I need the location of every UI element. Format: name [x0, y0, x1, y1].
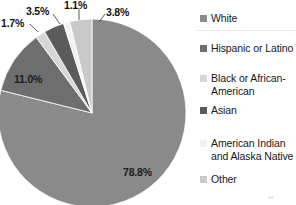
legend-swatch-icon-american-indian-and-alaska-native	[200, 140, 207, 147]
leader-line-other	[99, 14, 105, 22]
legend-swatch-icon-black-or-african-american	[200, 75, 207, 82]
data-label-black: 1.7%	[1, 17, 24, 29]
leader-line-asian	[53, 14, 60, 24]
legend-item-asian[interactable]: Asian	[200, 104, 237, 117]
data-label-asian: 3.5%	[26, 5, 49, 17]
legend-divider-rule	[196, 30, 296, 31]
leader-lines-group	[0, 0, 192, 205]
legend-swatch-icon-other	[200, 176, 207, 183]
data-label-american-indian: 1.1%	[64, 0, 87, 11]
pie-chart-figure: 78.8% 11.0% 1.7% 3.5% 1.1% 3.8% White Hi…	[0, 0, 296, 205]
legend-item-american-indian-and-alaska-native[interactable]: American Indian and Alaska Native	[200, 137, 293, 162]
leader-line-black	[30, 24, 38, 32]
legend-item-white[interactable]: White	[200, 12, 237, 25]
legend-item-hispanic-or-latino[interactable]: Hispanic or Latino	[200, 42, 293, 55]
pie-plot-area: 78.8% 11.0% 1.7% 3.5% 1.1% 3.8%	[0, 0, 192, 205]
data-label-white: 78.8%	[123, 166, 152, 178]
legend-label-other: Other	[211, 173, 237, 186]
legend-label-asian: Asian	[211, 104, 237, 117]
legend-label-hispanic-or-latino: Hispanic or Latino	[211, 42, 293, 55]
scan-artifact	[268, 196, 274, 199]
legend-label-black-or-african-american: Black or African- American	[211, 72, 286, 97]
legend-label-white: White	[211, 12, 237, 25]
data-label-other: 3.8%	[106, 6, 129, 18]
legend-swatch-icon-asian	[200, 107, 207, 114]
legend-item-black-or-african-american[interactable]: Black or African- American	[200, 72, 286, 97]
data-label-hispanic: 11.0%	[14, 73, 42, 85]
legend-item-other[interactable]: Other	[200, 173, 237, 186]
legend-swatch-icon-white	[200, 15, 207, 22]
legend-label-american-indian-and-alaska-native: American Indian and Alaska Native	[211, 137, 293, 162]
legend-swatch-icon-hispanic-or-latino	[200, 45, 207, 52]
